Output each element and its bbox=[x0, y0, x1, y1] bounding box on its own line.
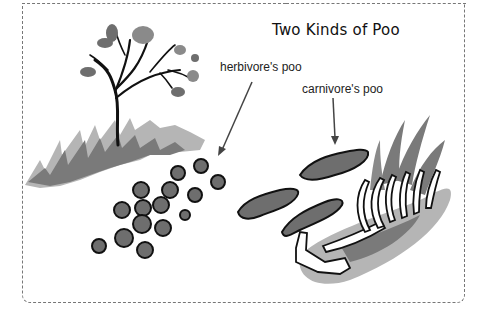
tree bbox=[80, 24, 199, 145]
carnivore-arrow-icon bbox=[331, 98, 339, 145]
herbivore-arrow-icon bbox=[218, 82, 252, 156]
herbivore-pellets bbox=[92, 159, 225, 258]
illustration bbox=[0, 0, 491, 314]
carnivore-droppings bbox=[238, 150, 368, 236]
